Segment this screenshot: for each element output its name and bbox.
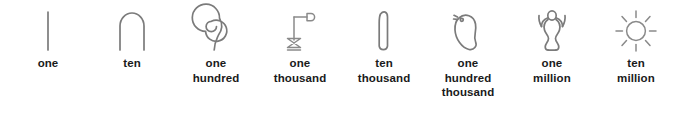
- caption-line: thousand: [358, 71, 411, 86]
- glyph-box-ten-thousand: [342, 0, 426, 56]
- caption-line: ten: [123, 56, 141, 71]
- numeral-cell-one-thousand: one thousand: [258, 0, 342, 85]
- caption-ten-thousand: ten thousand: [358, 56, 411, 85]
- numeral-cell-ten: ten: [90, 0, 174, 71]
- caption-line: one: [274, 56, 327, 71]
- caption-line: hundred: [193, 71, 240, 86]
- glyph-box-one-million: [510, 0, 594, 56]
- caption-line: hundred: [442, 71, 495, 86]
- caption-ten: ten: [123, 56, 141, 71]
- caption-line: one: [533, 56, 571, 71]
- glyph-box-one-hundred-thousand: [426, 0, 510, 56]
- heel-bone-arch-icon: [112, 6, 152, 54]
- caption-line: ten: [358, 56, 411, 71]
- numeral-cell-ten-thousand: ten thousand: [342, 0, 426, 85]
- caption-one: one: [38, 56, 59, 71]
- heh-god-figure-icon: [530, 6, 574, 54]
- glyph-box-one-thousand: [258, 0, 342, 56]
- sun-disk-rays-icon: [613, 6, 659, 54]
- caption-one-million: one million: [533, 56, 571, 85]
- coil-of-rope-icon: [197, 6, 235, 54]
- caption-line: thousand: [442, 85, 495, 100]
- caption-line: one: [442, 56, 495, 71]
- caption-line: million: [533, 71, 571, 86]
- glyph-box-ten: [90, 0, 174, 56]
- numeral-cell-ten-million: ten million: [594, 0, 678, 85]
- bent-finger-icon: [367, 6, 401, 54]
- numeral-cell-one-million: one million: [510, 0, 594, 85]
- caption-one-thousand: one thousand: [274, 56, 327, 85]
- egyptian-numerals-figure: one ten one hundred: [0, 0, 684, 122]
- caption-ten-million: ten million: [617, 56, 655, 85]
- tadpole-icon: [446, 6, 490, 54]
- caption-line: one: [193, 56, 240, 71]
- glyph-box-one: [6, 0, 90, 56]
- caption-one-hundred-thousand: one hundred thousand: [442, 56, 495, 100]
- numeral-cell-one: one: [6, 0, 90, 71]
- caption-line: one: [38, 56, 59, 71]
- lotus-plant-icon: [280, 6, 320, 54]
- caption-one-hundred: one hundred: [193, 56, 240, 85]
- numeral-cell-one-hundred: one hundred: [174, 0, 258, 85]
- glyph-box-one-hundred: [174, 0, 258, 56]
- single-stroke-icon: [30, 6, 66, 54]
- numeral-cell-one-hundred-thousand: one hundred thousand: [426, 0, 510, 100]
- glyph-box-ten-million: [594, 0, 678, 56]
- caption-line: thousand: [274, 71, 327, 86]
- caption-line: ten: [617, 56, 655, 71]
- caption-line: million: [617, 71, 655, 86]
